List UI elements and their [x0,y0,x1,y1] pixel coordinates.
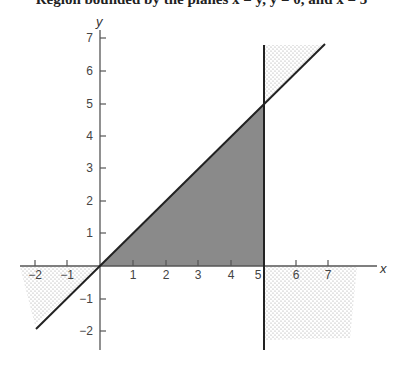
y-tick-label: 7 [86,31,93,45]
x-tick-label: −1 [60,268,74,282]
x-tick-label: 5 [255,268,262,282]
y-tick-label: −2 [79,324,93,338]
y-tick-label: 2 [86,194,93,208]
x-tick-label: 2 [163,268,170,282]
x-tick-label: 4 [228,268,235,282]
x-tick-label: −2 [28,268,42,282]
y-ticks [100,38,106,331]
x-tick-label: 3 [195,268,202,282]
y-tick-label: 1 [86,226,93,240]
y-tick-label: 6 [86,64,93,78]
y-axis-label: y [95,14,104,29]
y-tick-label: −1 [79,292,93,306]
x-tick-label: 7 [325,268,332,282]
y-tick-label: 4 [86,129,93,143]
dotted-region-lower-right [264,267,357,340]
y-tick-label: 3 [86,161,93,175]
diagram: −2 −1 1 2 3 4 5 6 7 7 6 5 4 3 2 1 −1 −2 … [0,0,403,371]
x-tick-label: 6 [293,268,300,282]
x-tick-label: 1 [130,268,137,282]
y-tick-label: 5 [86,97,93,111]
x-axis-label: x [379,261,387,276]
